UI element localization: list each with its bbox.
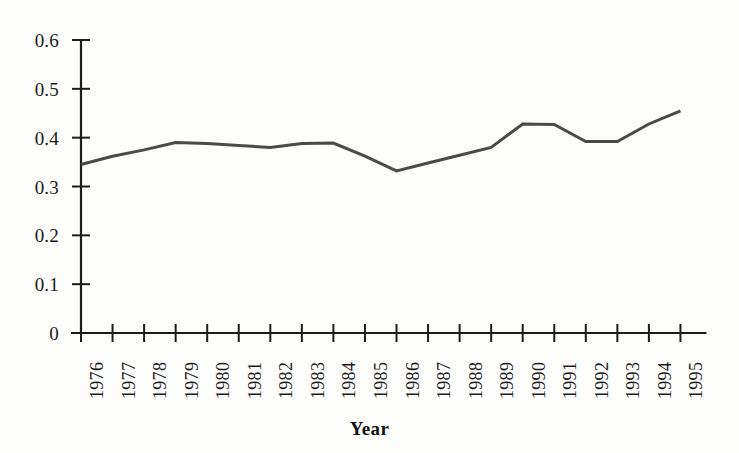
x-tick-label: 1982 bbox=[277, 362, 295, 399]
x-tick-label: 1984 bbox=[340, 362, 358, 399]
y-tick-label: 0 bbox=[11, 324, 59, 343]
x-tick-label: 1988 bbox=[467, 362, 485, 399]
x-tick-label: 1992 bbox=[593, 362, 611, 399]
x-tick-label: 1993 bbox=[624, 362, 642, 399]
x-tick-label: 1994 bbox=[656, 362, 674, 399]
x-tick-label: 1987 bbox=[435, 362, 453, 399]
y-tick-label: 0.6 bbox=[11, 31, 59, 50]
y-tick-label: 0.1 bbox=[11, 275, 59, 294]
x-axis-title: Year bbox=[0, 418, 739, 440]
x-tick-label: 1981 bbox=[246, 362, 264, 399]
y-tick-label: 0.4 bbox=[11, 129, 59, 148]
x-tick-label: 1976 bbox=[88, 362, 106, 399]
x-tick-label: 1978 bbox=[151, 362, 169, 399]
x-tick-label: 1990 bbox=[530, 362, 548, 399]
line-chart-figure: 00.10.20.30.40.50.6 19761977197819791980… bbox=[0, 0, 739, 453]
x-tick-label: 1977 bbox=[120, 362, 138, 399]
x-tick-label: 1979 bbox=[183, 362, 201, 399]
x-tick-label: 1983 bbox=[309, 362, 327, 399]
x-tick-label: 1986 bbox=[404, 362, 422, 399]
x-tick-label: 1980 bbox=[214, 362, 232, 399]
x-tick-label: 1985 bbox=[372, 362, 390, 399]
x-tick-label: 1989 bbox=[498, 362, 516, 399]
x-tick-label: 1991 bbox=[561, 362, 579, 399]
y-tick-label: 0.2 bbox=[11, 226, 59, 245]
tick-marks-group bbox=[72, 40, 680, 342]
axes-group bbox=[71, 40, 706, 333]
y-tick-label: 0.3 bbox=[11, 178, 59, 197]
x-tick-label: 1995 bbox=[687, 362, 705, 399]
y-tick-label: 0.5 bbox=[11, 80, 59, 99]
data-series-line bbox=[81, 111, 680, 171]
